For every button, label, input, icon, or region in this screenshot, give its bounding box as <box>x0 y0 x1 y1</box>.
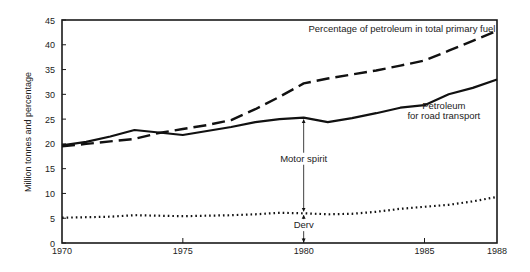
y-tick-label: 40 <box>45 40 55 50</box>
annotation-derv: Derv <box>294 219 314 230</box>
annotation-percentage-of-petroleum-in-total-primary-fuel: Percentage of petroleum in total primary… <box>309 23 496 34</box>
annotation-motor-spirit: Motor spirit <box>280 153 327 164</box>
line-chart: 05101520253035404519701975198019851988 P… <box>0 0 530 272</box>
annotations: Percentage of petroleum in total primary… <box>269 23 495 242</box>
y-tick-label: 35 <box>45 65 55 75</box>
y-tick-label: 5 <box>50 214 55 224</box>
y-axis-label: Million tonnes and percentage <box>23 72 33 192</box>
y-tick-label: 25 <box>45 115 55 125</box>
y-tick-label: 10 <box>45 189 55 199</box>
y-tick-label: 45 <box>45 16 55 26</box>
series-derv <box>62 197 497 218</box>
x-tick-label: 1988 <box>487 246 507 256</box>
series-percentage-of-petroleum-in-total-primary-fuel <box>62 31 497 146</box>
x-tick-label: 1975 <box>173 246 193 256</box>
x-tick-label: 1970 <box>52 246 72 256</box>
series-lines <box>62 31 497 218</box>
y-tick-label: 20 <box>45 139 55 149</box>
y-tick-label: 15 <box>45 164 55 174</box>
x-tick-label: 1980 <box>294 246 314 256</box>
x-tick-label: 1985 <box>414 246 434 256</box>
y-tick-label: 30 <box>45 90 55 100</box>
annotation-for-road-transport: for road transport <box>407 110 480 121</box>
